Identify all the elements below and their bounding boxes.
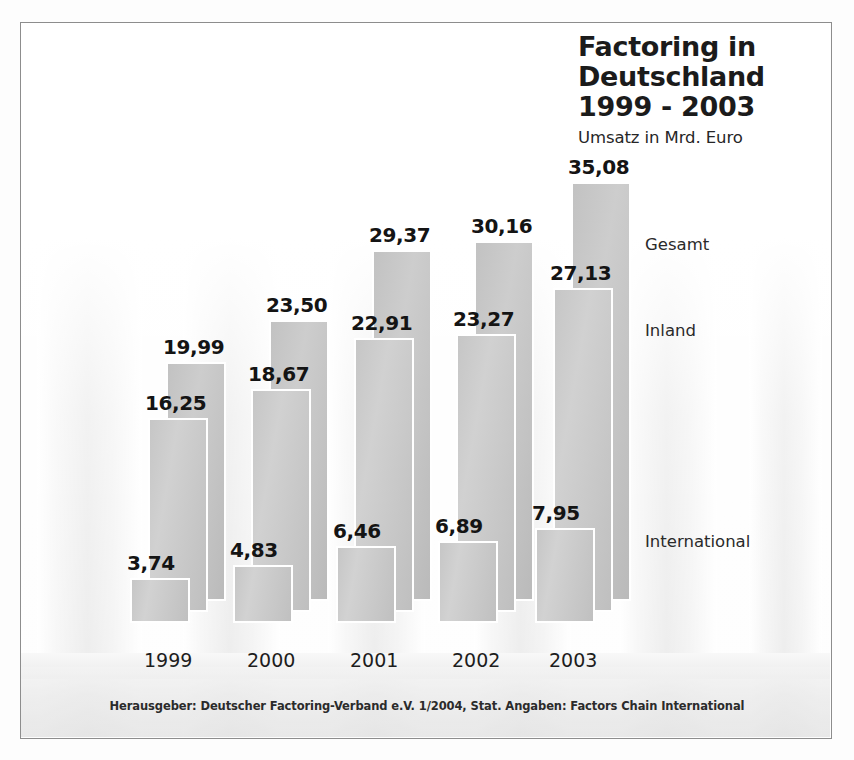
value-label-international-1999: 3,74 [127,551,175,575]
value-label-international-2003: 7,95 [532,501,580,525]
bar-group-1999: 19,9916,253,741999 [130,137,232,737]
value-label-inland-2000: 18,67 [248,362,309,386]
bar-international-2003 [535,528,595,623]
value-label-inland-2002: 23,27 [453,307,514,331]
value-label-international-2000: 4,83 [230,538,278,562]
x-axis-label-2002: 2002 [452,649,500,671]
bar-group-2000: 23,5018,674,832000 [233,137,335,737]
footer-source-note: Herausgeber: Deutscher Factoring-Verband… [0,699,854,713]
bar-group-2003: 35,0827,137,952003 [535,137,637,737]
value-label-international-2001: 6,46 [333,519,381,543]
x-axis-label-2001: 2001 [350,649,398,671]
bar-international-2000 [233,565,293,623]
bar-international-2001 [336,546,396,623]
value-label-gesamt-2000: 23,50 [266,293,327,317]
chart-canvas: Factoring in Deutschland 1999 - 2003 Ums… [0,0,854,760]
value-label-gesamt-2003: 35,08 [568,155,629,179]
x-axis-label-1999: 1999 [144,649,192,671]
bar-international-1999 [130,578,190,623]
value-label-inland-1999: 16,25 [145,391,206,415]
bar-group-2002: 30,1623,276,892002 [438,137,540,737]
value-label-gesamt-1999: 19,99 [163,335,224,359]
value-label-gesamt-2002: 30,16 [471,214,532,238]
value-label-inland-2003: 27,13 [550,261,611,285]
x-axis-label-2000: 2000 [247,649,295,671]
value-label-gesamt-2001: 29,37 [369,223,430,247]
plot-area: 19,9916,253,74199923,5018,674,83200029,3… [21,23,830,737]
x-axis-label-2003: 2003 [549,649,597,671]
value-label-inland-2001: 22,91 [351,311,412,335]
value-label-international-2002: 6,89 [435,514,483,538]
bar-group-2001: 29,3722,916,462001 [336,137,438,737]
bar-international-2002 [438,541,498,623]
